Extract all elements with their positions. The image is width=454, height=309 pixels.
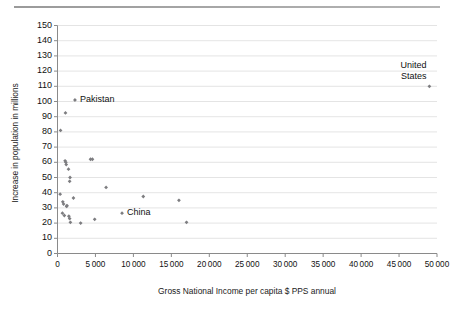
y-tick-label: 130 [26,50,52,60]
y-tick-label: 80 [26,126,52,136]
annotation-line: States [381,71,426,82]
data-point-marker [64,111,68,115]
y-tick-label: 110 [26,80,52,90]
y-tick-label: 10 [26,232,52,242]
y-tick-label: 90 [26,111,52,121]
data-point-marker [120,211,124,215]
y-axis-title: Increase in population in millions [10,43,20,243]
data-point-marker [93,217,97,221]
data-point-marker [141,195,145,199]
data-point-marker [185,220,189,224]
y-tick-label: 50 [26,172,52,182]
data-point-marker [428,84,432,88]
gridlines-group [58,26,438,254]
y-tick-label: 0 [26,248,52,258]
x-axis-title: Gross National Income per capita $ PPS a… [57,286,437,296]
y-tick-label: 100 [26,96,52,106]
y-tick-label: 70 [26,141,52,151]
point-annotation: UnitedStates [381,60,426,82]
data-point-marker [67,167,71,171]
y-tick-label: 140 [26,35,52,45]
y-tick-label: 150 [26,20,52,30]
data-point-marker [79,221,83,225]
data-point-marker [68,176,72,180]
data-point-marker [72,196,76,200]
data-markers-group [58,84,431,225]
y-tick-label: 20 [26,217,52,227]
annotation-line: United [381,60,426,71]
data-point-marker [177,198,181,202]
x-tick-label: 50 000 [414,260,454,269]
data-point-marker [68,179,72,183]
point-annotation: China [127,207,151,218]
data-point-marker [104,185,108,189]
y-tick-label: 30 [26,202,52,212]
tick-marks-group [54,26,437,258]
y-tick-label: 120 [26,65,52,75]
data-point-marker [64,163,68,167]
y-tick-label: 40 [26,187,52,197]
scatter-chart-figure: 0102030405060708090100110120130140150 05… [0,0,454,309]
data-point-marker [69,220,73,224]
axes-group [58,26,438,254]
point-annotation: Pakistan [80,94,115,105]
y-tick-label: 60 [26,156,52,166]
